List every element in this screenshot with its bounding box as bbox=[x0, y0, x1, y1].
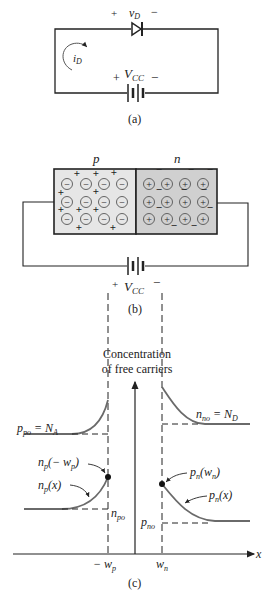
hole: + bbox=[76, 221, 82, 233]
acceptor-ion-sign: − bbox=[119, 179, 125, 190]
pn-edge-point bbox=[159, 481, 165, 487]
y-axis-label-line1: Concentration bbox=[103, 347, 171, 361]
electron: − bbox=[181, 183, 187, 195]
vcc-b-plus: + bbox=[112, 278, 118, 290]
acceptor-ion-sign: − bbox=[83, 179, 89, 190]
vcc-b-minus: − bbox=[153, 275, 160, 290]
acceptor-ion-sign: − bbox=[101, 214, 107, 225]
n-region-label: n bbox=[174, 151, 181, 166]
pn-x-label: pn(x) bbox=[208, 488, 232, 504]
ppo-label: ppo = NA bbox=[16, 421, 58, 437]
donor-ion-sign: + bbox=[182, 197, 188, 208]
acceptor-ion-sign: − bbox=[83, 214, 89, 225]
vd-label: vD bbox=[129, 6, 140, 21]
acceptor-ion-sign: − bbox=[101, 197, 107, 208]
hole: + bbox=[93, 185, 99, 197]
np-edge-point bbox=[105, 474, 111, 480]
pn-x-pointer bbox=[185, 496, 207, 503]
donor-ion-sign: + bbox=[146, 197, 152, 208]
np-curve bbox=[24, 477, 108, 509]
hole: + bbox=[74, 167, 80, 179]
hole: + bbox=[93, 203, 99, 215]
pn-edge-label: pn(wn) bbox=[189, 465, 220, 481]
id-label: iD bbox=[73, 52, 82, 66]
donor-ion-sign: + bbox=[164, 214, 170, 225]
pn-edge-pointer bbox=[166, 473, 187, 482]
y-axis-label-line2: of free carriers bbox=[102, 362, 173, 376]
acceptor-ion-sign: − bbox=[119, 197, 125, 208]
vcc-b-label: VCC bbox=[124, 279, 145, 296]
acceptor-ion-sign: − bbox=[83, 197, 89, 208]
donor-ion-sign: + bbox=[164, 179, 170, 190]
np-edge-label: np(− wp) bbox=[38, 455, 79, 471]
p-region-label: p bbox=[92, 151, 100, 166]
diode-icon bbox=[132, 22, 142, 36]
battery-icon bbox=[127, 256, 145, 276]
vcc-a-plus: + bbox=[113, 71, 120, 85]
vcc-a-minus: − bbox=[151, 70, 158, 85]
tick-wn: wn bbox=[156, 557, 168, 573]
hole: + bbox=[93, 167, 99, 179]
hole: + bbox=[110, 221, 116, 233]
pn-curve bbox=[162, 484, 250, 521]
hole: + bbox=[76, 203, 82, 215]
tick-neg-wp: − wp bbox=[93, 557, 116, 573]
vcc-a-label: VCC bbox=[124, 66, 145, 83]
electron: − bbox=[201, 183, 207, 195]
hole: + bbox=[111, 166, 117, 178]
npo-label: npo bbox=[111, 506, 125, 522]
acceptor-ion-sign: − bbox=[64, 197, 70, 208]
donor-ion-sign: + bbox=[200, 214, 206, 225]
donor-ion-sign: + bbox=[182, 214, 188, 225]
pn-junction-figure: + vD − iD + VCC − (a) p n −−−−−−−−−−−− bbox=[0, 0, 273, 593]
np-edge-pointer bbox=[88, 464, 105, 473]
electron: − bbox=[156, 183, 162, 195]
caption-c: (c) bbox=[128, 576, 141, 590]
electron: − bbox=[207, 201, 213, 213]
x-axis-label: x bbox=[255, 547, 262, 561]
acceptor-ion-sign: − bbox=[101, 179, 107, 190]
battery-icon bbox=[127, 83, 145, 103]
electron: − bbox=[156, 163, 162, 175]
hole: + bbox=[58, 203, 64, 215]
np-x-label: np(x) bbox=[38, 478, 61, 494]
nno-label: nno = ND bbox=[196, 407, 238, 423]
hole: + bbox=[58, 186, 64, 198]
acceptor-ion-sign: − bbox=[64, 179, 70, 190]
vd-minus: − bbox=[151, 5, 158, 19]
donor-ion-sign: + bbox=[200, 197, 206, 208]
donor-ion-sign: + bbox=[146, 214, 152, 225]
acceptor-ion-sign: − bbox=[64, 214, 70, 225]
electron: − bbox=[207, 163, 213, 175]
donor-ion-sign: + bbox=[146, 179, 152, 190]
panel-c-plot: Concentration of free carriers x − wp wn… bbox=[13, 293, 262, 590]
vd-plus: + bbox=[111, 7, 117, 19]
np-x-pointer bbox=[70, 485, 89, 497]
caption-b: (b) bbox=[128, 302, 142, 316]
acceptor-ion-sign: − bbox=[119, 214, 125, 225]
electron: − bbox=[171, 219, 177, 231]
caption-a: (a) bbox=[128, 112, 141, 126]
electron: − bbox=[156, 201, 162, 213]
pno-label: pno bbox=[140, 515, 155, 531]
panel-a-circuit: + vD − iD + VCC − (a) bbox=[55, 5, 218, 126]
electron: − bbox=[191, 219, 197, 231]
panel-b-junction: p n −−−−−−−−−−−− ++++++++++++ ++++++++++… bbox=[23, 151, 248, 316]
electron: − bbox=[188, 163, 194, 175]
donor-ion-sign: + bbox=[164, 197, 170, 208]
